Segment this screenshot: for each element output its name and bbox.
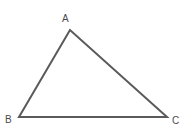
triangle-drawing-canvas [0,0,187,133]
geometry-figure: A B C [0,0,187,133]
vertex-label-a: A [62,14,69,24]
vertex-label-b: B [5,115,12,125]
vertex-label-c: C [172,116,179,126]
figure-background [0,0,187,133]
